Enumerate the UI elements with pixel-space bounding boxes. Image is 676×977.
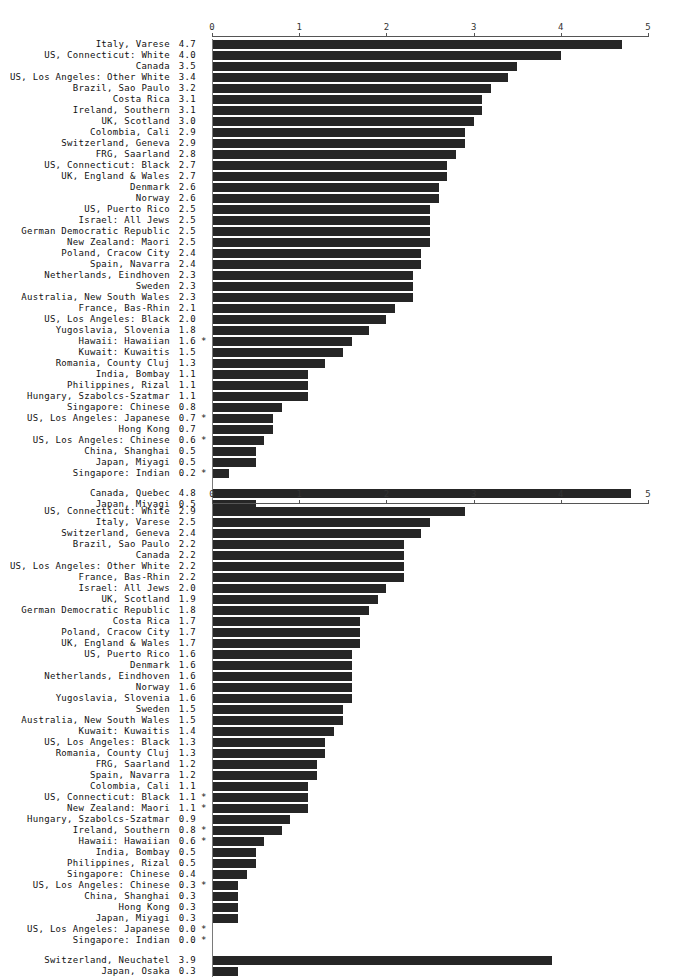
value-label: 0.0 bbox=[172, 924, 196, 935]
footnote-asterisk: * bbox=[201, 825, 206, 836]
category-label: Hawaii: Hawaiian bbox=[79, 836, 171, 847]
value-label: 3.4 bbox=[172, 72, 196, 83]
category-label: US, Los Angeles: Chinese bbox=[33, 880, 170, 891]
bar bbox=[212, 469, 229, 478]
chart-row: US, Connecticut: White4.0 bbox=[0, 50, 676, 61]
bar-track bbox=[212, 955, 648, 966]
bar bbox=[212, 403, 282, 412]
bar-track bbox=[212, 935, 648, 946]
bar-track bbox=[212, 671, 648, 682]
chart-row: Israel: All Jews2.0 bbox=[0, 583, 676, 594]
bar bbox=[212, 326, 369, 335]
footnote-asterisk: * bbox=[201, 935, 206, 946]
category-label: US, Los Angeles: Black bbox=[44, 737, 170, 748]
category-label: Ireland, Southern bbox=[73, 105, 170, 116]
category-label: Spain, Navarra bbox=[90, 770, 170, 781]
bar-track bbox=[212, 814, 648, 825]
bar-track bbox=[212, 39, 648, 50]
bar bbox=[212, 606, 369, 615]
value-label: 2.5 bbox=[172, 204, 196, 215]
axis-line bbox=[212, 36, 648, 37]
category-label: Singapore: Chinese bbox=[67, 402, 170, 413]
axis-tick-mark bbox=[212, 500, 213, 504]
bar-track bbox=[212, 83, 648, 94]
bar-track bbox=[212, 660, 648, 671]
bar bbox=[212, 573, 404, 582]
value-label: 0.5 bbox=[172, 446, 196, 457]
bar bbox=[212, 507, 465, 516]
value-label: 2.1 bbox=[172, 303, 196, 314]
category-label: Spain, Navarra bbox=[90, 259, 170, 270]
value-label: 1.1 bbox=[172, 369, 196, 380]
value-label: 0.5 bbox=[172, 457, 196, 468]
value-label: 1.6 bbox=[172, 660, 196, 671]
bar bbox=[212, 315, 386, 324]
bar-track bbox=[212, 380, 648, 391]
chart-row: Australia, New South Wales2.3 bbox=[0, 292, 676, 303]
chart-row: Spain, Navarra2.4 bbox=[0, 259, 676, 270]
chart-row: Hawaii: Hawaiian1.6* bbox=[0, 336, 676, 347]
value-label: 1.7 bbox=[172, 627, 196, 638]
category-label: Israel: All Jews bbox=[79, 215, 171, 226]
bar bbox=[212, 425, 273, 434]
bar-track bbox=[212, 468, 648, 479]
category-label: Hong Kong bbox=[119, 424, 170, 435]
category-label: Yugoslavia, Slovenia bbox=[56, 325, 170, 336]
chart-row: France, Bas-Rhin2.1 bbox=[0, 303, 676, 314]
chart-row: Brazil, Sao Paulo2.2 bbox=[0, 539, 676, 550]
zero-baseline bbox=[212, 506, 213, 977]
bar-track bbox=[212, 693, 648, 704]
chart-row: Switzerland, Neuchatel3.9 bbox=[0, 955, 676, 966]
axis-tick-mark bbox=[212, 33, 213, 37]
category-label: US, Los Angeles: Black bbox=[44, 314, 170, 325]
category-label: German Democratic Republic bbox=[21, 605, 170, 616]
value-label: 2.4 bbox=[172, 248, 196, 259]
chart-row: FRG, Saarland1.2 bbox=[0, 759, 676, 770]
category-label: Romania, County Cluj bbox=[56, 358, 170, 369]
chart-row: Singapore: Chinese0.4 bbox=[0, 869, 676, 880]
bar bbox=[212, 967, 238, 976]
value-label: 3.0 bbox=[172, 116, 196, 127]
value-label: 1.3 bbox=[172, 748, 196, 759]
bar bbox=[212, 249, 421, 258]
axis-tick-mark bbox=[386, 500, 387, 504]
bar-track bbox=[212, 803, 648, 814]
axis-tick-label: 5 bbox=[645, 22, 650, 32]
bar bbox=[212, 238, 430, 247]
category-label: Japan, Miyagi bbox=[96, 457, 170, 468]
chart-row: Brazil, Sao Paulo3.2 bbox=[0, 83, 676, 94]
bar-track bbox=[212, 413, 648, 424]
bar-track bbox=[212, 715, 648, 726]
category-label: UK, England & Wales bbox=[61, 638, 170, 649]
value-label: 0.7 bbox=[172, 413, 196, 424]
category-label: FRG, Saarland bbox=[96, 759, 170, 770]
value-label: 2.7 bbox=[172, 171, 196, 182]
value-label: 2.3 bbox=[172, 281, 196, 292]
chart-row: US, Los Angeles: Japanese0.7* bbox=[0, 413, 676, 424]
bar bbox=[212, 639, 360, 648]
bar-track bbox=[212, 391, 648, 402]
chart-row: Hong Kong0.7 bbox=[0, 424, 676, 435]
value-label: 3.1 bbox=[172, 105, 196, 116]
value-label: 0.5 bbox=[172, 858, 196, 869]
axis-tick-mark bbox=[299, 33, 300, 37]
bar-track bbox=[212, 913, 648, 924]
chart-row: Hungary, Szabolcs-Szatmar0.9 bbox=[0, 814, 676, 825]
bar bbox=[212, 183, 439, 192]
bar-track bbox=[212, 682, 648, 693]
bar-track bbox=[212, 281, 648, 292]
chart-row: UK, Scotland3.0 bbox=[0, 116, 676, 127]
bar bbox=[212, 518, 430, 527]
footnote-asterisk: * bbox=[201, 435, 206, 446]
value-label: 1.2 bbox=[172, 770, 196, 781]
bar-track bbox=[212, 61, 648, 72]
category-label: Philippines, Rizal bbox=[67, 380, 170, 391]
bar bbox=[212, 760, 317, 769]
chart-row: Italy, Varese4.7 bbox=[0, 39, 676, 50]
chart-row: Costa Rica1.7 bbox=[0, 616, 676, 627]
value-label: 1.6 bbox=[172, 649, 196, 660]
bar bbox=[212, 892, 238, 901]
chart-row: Philippines, Rizal1.1 bbox=[0, 380, 676, 391]
category-label: Norway bbox=[136, 682, 170, 693]
bar bbox=[212, 617, 360, 626]
